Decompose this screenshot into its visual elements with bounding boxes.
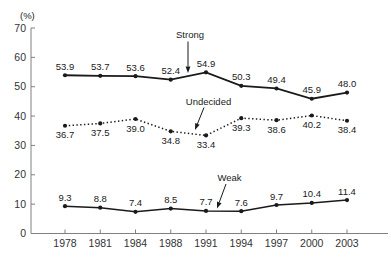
data-label: 38.4	[338, 124, 357, 135]
data-label: 36.7	[56, 129, 75, 140]
data-point	[204, 70, 208, 74]
x-tick-label: 1997	[265, 237, 289, 249]
data-point	[345, 90, 349, 94]
strong-arrow	[186, 42, 191, 74]
chart-figure: (%) Strong Undecided Weak 01020304050607…	[0, 0, 391, 259]
data-point	[169, 129, 173, 133]
data-label: 8.8	[94, 193, 107, 204]
strong-arrow-head	[186, 67, 191, 74]
data-label: 33.4	[197, 139, 216, 150]
x-tick-label: 1981	[89, 237, 113, 249]
data-point	[239, 116, 243, 120]
weak-arrow	[217, 184, 226, 209]
data-point	[274, 118, 278, 122]
data-point	[239, 84, 243, 88]
y-tick-label: 50	[14, 80, 26, 92]
data-point	[310, 201, 314, 205]
data-label: 54.9	[197, 58, 216, 69]
x-tick-label: 1978	[53, 237, 77, 249]
x-tick-label: 2003	[335, 237, 359, 249]
undecided-arrow-line	[197, 108, 204, 124]
data-point	[274, 203, 278, 207]
data-label: 37.5	[91, 127, 110, 138]
data-label: 40.2	[303, 119, 322, 130]
line-plot: 0102030405060701978198119841988199119941…	[0, 0, 391, 259]
data-label: 53.9	[56, 61, 75, 72]
data-point	[63, 124, 67, 128]
data-label: 39.3	[232, 122, 251, 133]
data-point	[98, 74, 102, 78]
data-point	[133, 210, 137, 214]
data-label: 7.6	[235, 197, 248, 208]
x-tick-label: 1988	[159, 237, 183, 249]
data-point	[169, 206, 173, 210]
data-point	[310, 113, 314, 117]
data-label: 8.5	[164, 194, 177, 205]
data-label: 7.7	[199, 196, 212, 207]
data-label: 53.6	[126, 62, 145, 73]
data-label: 39.0	[126, 123, 145, 134]
weak-arrow-head	[217, 202, 222, 209]
undecided-arrow	[195, 108, 204, 131]
data-point	[204, 133, 208, 137]
data-label: 52.4	[162, 65, 181, 76]
y-tick-label: 30	[14, 139, 26, 151]
x-tick-label: 1991	[194, 237, 218, 249]
data-label: 50.3	[232, 71, 251, 82]
data-point	[310, 97, 314, 101]
data-label: 53.7	[91, 61, 110, 72]
data-point	[63, 73, 67, 77]
series-undecided: 36.737.539.034.833.439.338.640.238.4	[56, 113, 357, 150]
x-tick-label: 1984	[124, 237, 148, 249]
data-point	[345, 198, 349, 202]
data-point	[98, 121, 102, 125]
weak-arrow-line	[219, 184, 226, 202]
data-point	[98, 206, 102, 210]
y-tick-label: 0	[20, 227, 26, 239]
data-label: 11.4	[338, 186, 356, 197]
data-point	[204, 209, 208, 213]
series-weak: 9.38.87.48.57.77.69.710.411.4	[58, 186, 356, 214]
data-label: 9.7	[270, 191, 283, 202]
data-label: 9.3	[58, 192, 71, 203]
data-point	[169, 78, 173, 82]
data-point	[345, 119, 349, 123]
y-tick-label: 40	[14, 110, 26, 122]
data-label: 38.6	[267, 124, 286, 135]
y-tick-label: 70	[14, 22, 26, 34]
data-point	[274, 86, 278, 90]
data-label: 10.4	[303, 188, 322, 199]
y-tick-label: 60	[14, 51, 26, 63]
y-tick-label: 20	[14, 168, 26, 180]
data-label: 45.9	[303, 84, 322, 95]
data-label: 49.4	[267, 74, 286, 85]
data-point	[133, 117, 137, 121]
x-tick-label: 1994	[230, 237, 254, 249]
data-label: 7.4	[129, 197, 142, 208]
x-tick-label: 2000	[300, 237, 324, 249]
data-label: 48.0	[338, 78, 357, 89]
data-point	[133, 74, 137, 78]
data-label: 34.8	[162, 135, 181, 146]
y-tick-label: 10	[14, 198, 26, 210]
series-strong: 53.953.753.652.454.950.349.445.948.0	[56, 58, 357, 101]
undecided-arrow-head	[195, 123, 200, 130]
data-point	[63, 204, 67, 208]
data-point	[239, 209, 243, 213]
